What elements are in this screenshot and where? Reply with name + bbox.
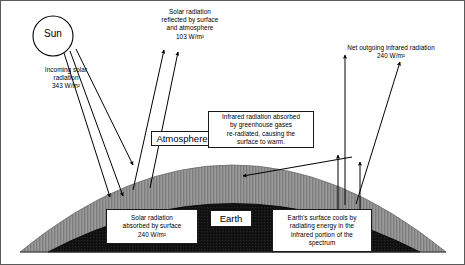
reflected-solar-arrows bbox=[133, 50, 178, 190]
outgoing-infrared-arrows bbox=[345, 55, 400, 205]
greenhouse-effect-diagram: Sun Incoming solar radiation 343 W/m² So… bbox=[0, 0, 465, 265]
sun-label: Sun bbox=[33, 28, 73, 39]
earth-layer-label: Earth bbox=[210, 210, 252, 227]
outgoing-infrared-caption: Net outgoing infrared radiation 240 W/m² bbox=[330, 44, 452, 60]
incoming-solar-caption: Incoming solar radiation 343 W/m² bbox=[30, 66, 102, 91]
surface-absorption-box: Solar radiation absorbed by surface 240 … bbox=[106, 209, 198, 244]
atmosphere-layer-label: Atmosphere bbox=[151, 131, 213, 146]
reflected-solar-caption: Solar radiation reflected by surface and… bbox=[140, 8, 240, 41]
greenhouse-absorption-box: Infrared radiation absorbed by greenhous… bbox=[208, 111, 314, 148]
surface-cooling-box: Earth's surface cools by radiating energ… bbox=[272, 209, 372, 252]
